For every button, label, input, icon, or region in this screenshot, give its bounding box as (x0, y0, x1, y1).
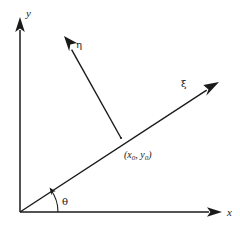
eta-axis-line (72, 50, 121, 138)
paren-close: ) (147, 149, 152, 161)
x-axis-label: x (226, 206, 232, 218)
arrow-up-icon (15, 17, 25, 32)
y-axis-label: y (25, 7, 31, 19)
point-coordinate-label: (x0, y0) (124, 149, 152, 162)
theta-angle-label: θ (62, 196, 68, 207)
xi-axis-line (20, 90, 207, 212)
svg-text:(x0, y0): (x0, y0) (124, 149, 152, 162)
arrow-right-icon (207, 207, 222, 217)
arrow-up-left-icon (64, 36, 77, 51)
eta-axis-label: η (76, 39, 82, 50)
coordinate-rotation-diagram: y x ξ η θ (x0, y0) (0, 0, 240, 225)
origin-point-marker (120, 137, 122, 139)
theta-arc (51, 190, 58, 212)
arrow-up-right-icon (203, 82, 219, 96)
xi-axis-label: ξ (181, 78, 187, 89)
diagram-canvas: y x ξ η θ (x0, y0) (0, 0, 240, 225)
